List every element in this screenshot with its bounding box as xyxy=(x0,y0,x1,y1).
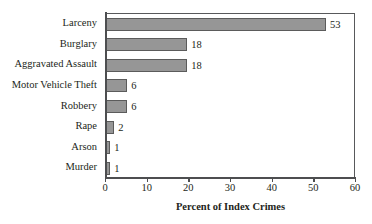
bar xyxy=(106,121,114,134)
x-axis-ticks: 0102030405060 xyxy=(105,178,356,200)
x-tick-label: 50 xyxy=(308,182,319,193)
bar xyxy=(106,100,127,113)
bar xyxy=(106,59,187,72)
x-axis-title: Percent of Index Crimes xyxy=(105,201,356,212)
x-tick-label: 60 xyxy=(350,182,361,193)
bar-row: 53 xyxy=(106,14,354,35)
bar xyxy=(106,38,187,51)
category-axis-labels: LarcenyBurglaryAggravated AssaultMotor V… xyxy=(0,13,101,178)
x-tick-label: 40 xyxy=(266,182,277,193)
bar-row: 18 xyxy=(106,55,354,76)
category-label: Aggravated Assault xyxy=(14,54,97,75)
bar-value-label: 2 xyxy=(118,120,123,135)
x-tick-label: 30 xyxy=(225,182,236,193)
category-label: Motor Vehicle Theft xyxy=(12,75,97,96)
category-label: Larceny xyxy=(63,13,97,34)
x-tick-label: 20 xyxy=(183,182,194,193)
bar-value-label: 18 xyxy=(191,37,202,52)
x-tick-label: 10 xyxy=(141,182,152,193)
bar-row: 6 xyxy=(106,76,354,97)
bar-row: 6 xyxy=(106,97,354,118)
bar-row: 18 xyxy=(106,35,354,56)
plot-area: 53181866211 xyxy=(105,13,355,178)
bar-value-label: 6 xyxy=(131,78,136,93)
category-label: Rape xyxy=(75,116,97,137)
bar-chart: LarcenyBurglaryAggravated AssaultMotor V… xyxy=(0,0,372,224)
bar-value-label: 18 xyxy=(191,58,202,73)
category-label: Burglary xyxy=(60,34,97,55)
y-axis-line xyxy=(105,12,107,179)
x-tick-label: 0 xyxy=(102,182,107,193)
bar-row: 1 xyxy=(106,138,354,159)
category-label: Murder xyxy=(66,157,98,178)
bar-value-label: 53 xyxy=(330,17,341,32)
bar xyxy=(106,162,110,175)
bar xyxy=(106,79,127,92)
category-label: Arson xyxy=(71,137,97,158)
bar-row: 2 xyxy=(106,117,354,138)
bar xyxy=(106,18,326,31)
bar-row: 1 xyxy=(106,158,354,179)
category-label: Robbery xyxy=(61,96,97,117)
bar-value-label: 6 xyxy=(131,99,136,114)
bar-value-label: 1 xyxy=(114,161,119,176)
bar xyxy=(106,141,110,154)
bar-value-label: 1 xyxy=(114,140,119,155)
